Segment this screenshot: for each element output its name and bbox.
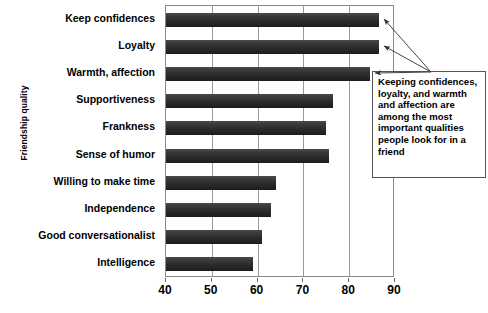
bar bbox=[166, 13, 379, 27]
x-tick-label-70: 70 bbox=[282, 283, 322, 297]
category-label-sense-of-humor: Sense of humor bbox=[9, 149, 155, 160]
category-label-keep-confidences: Keep confidences bbox=[9, 13, 155, 24]
bar bbox=[166, 257, 253, 271]
x-tick-label-40: 40 bbox=[145, 283, 185, 297]
category-label-intelligence: Intelligence bbox=[9, 257, 155, 268]
category-label-loyalty: Loyalty bbox=[9, 40, 155, 51]
tick-mark bbox=[211, 278, 212, 282]
bar-chart: Friendship quality Keep confidencesLoyal… bbox=[0, 0, 488, 313]
tick-mark bbox=[165, 278, 166, 282]
bar bbox=[166, 67, 370, 81]
annotation-callout-box: Keeping confidences, loyalty, and warmth… bbox=[372, 71, 486, 178]
bar bbox=[166, 149, 329, 163]
bar bbox=[166, 94, 333, 108]
tick-mark bbox=[348, 278, 349, 282]
bar bbox=[166, 40, 379, 54]
x-tick-label-90: 90 bbox=[374, 283, 414, 297]
category-label-willing-to-make-time: Willing to make time bbox=[9, 176, 155, 187]
plot-area bbox=[165, 5, 394, 277]
category-label-frankness: Frankness bbox=[9, 121, 155, 132]
category-label-supportiveness: Supportiveness bbox=[9, 94, 155, 105]
tick-mark bbox=[257, 278, 258, 282]
x-axis: 405060708090 bbox=[165, 278, 394, 300]
x-tick-label-80: 80 bbox=[328, 283, 368, 297]
tick-mark bbox=[394, 278, 395, 282]
tick-mark bbox=[302, 278, 303, 282]
bar bbox=[166, 230, 262, 244]
x-tick-label-50: 50 bbox=[191, 283, 231, 297]
bar bbox=[166, 121, 326, 135]
y-axis-category-labels: Keep confidencesLoyaltyWarmth, affection… bbox=[14, 5, 160, 277]
bar bbox=[166, 176, 276, 190]
bar bbox=[166, 203, 271, 217]
category-label-independence: Independence bbox=[9, 203, 155, 214]
x-tick-label-60: 60 bbox=[237, 283, 277, 297]
category-label-warmth-affection: Warmth, affection bbox=[9, 67, 155, 78]
category-label-good-conversationalist: Good conversationalist bbox=[9, 230, 155, 241]
